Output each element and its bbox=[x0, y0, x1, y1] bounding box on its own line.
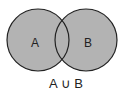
set-b-label: B bbox=[84, 37, 92, 49]
diagram-caption: A ∪ B bbox=[49, 77, 83, 90]
set-a-label: A bbox=[31, 37, 39, 49]
